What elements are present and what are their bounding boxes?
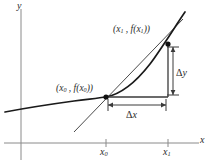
delta-y-label: Δy: [176, 68, 187, 78]
delta-x-measure: [108, 99, 166, 111]
point-marker-x1: [165, 41, 170, 46]
x-axis-label: x: [200, 135, 204, 145]
point-label-x1-close: )): [144, 24, 150, 34]
y-axis-label: y: [17, 1, 21, 11]
secant-line-figure: y x x0 x1 (x1 , f(x1)) (x0 , f(x0)) Δy Δ…: [0, 0, 212, 165]
point-label-x1: (x1 , f(x1)): [113, 25, 150, 35]
figure-canvas: [0, 0, 212, 165]
x-tick-label-x1-sub: 1: [167, 150, 170, 157]
x-tick-label-x0-sub: 0: [104, 150, 107, 157]
point-label-x0-sep: ,: [66, 83, 73, 93]
x-tick-label-x0: x0: [100, 147, 108, 158]
delta-x-variable: x: [132, 109, 136, 120]
point-marker-x0: [103, 94, 108, 99]
point-label-x0: (x0 , f(x0)): [56, 84, 93, 94]
point-label-x1-sep: ,: [123, 24, 130, 34]
delta-y-variable: y: [182, 67, 186, 78]
delta-x-label: Δx: [126, 110, 137, 120]
x-tick-label-x1: x1: [163, 147, 171, 158]
point-label-x0-close: )): [87, 83, 93, 93]
